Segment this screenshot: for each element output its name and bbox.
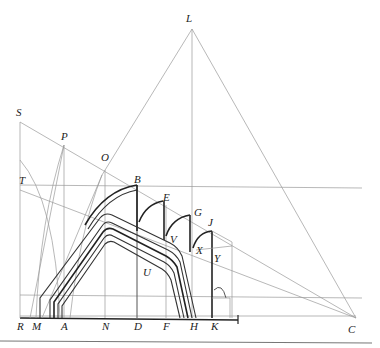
label-D: D [133,320,142,332]
base-line-thick [20,318,238,320]
label-M: M [31,320,42,332]
label-V: V [170,233,178,245]
line-L-C [192,29,356,318]
diag-P-M [30,145,64,318]
label-J: J [208,216,214,228]
label-U: U [143,266,152,278]
horizon-guide [20,185,362,188]
label-G: G [194,206,202,218]
label-P: P [60,130,68,142]
bottom-rule [0,341,372,343]
label-E: E [162,191,170,203]
ray-S-C [20,122,356,318]
line-L-O [102,29,192,175]
label-R: R [16,320,24,332]
rib-arc-E [139,201,163,222]
nested-ribs [40,214,196,318]
line-J [212,231,232,242]
rib-arc-B-outer [85,185,137,225]
vault-construction-diagram: L S P O T B E G J V X Y U R M A N D F H … [0,0,380,348]
label-F: F [162,320,170,332]
label-K: K [210,320,219,332]
point-labels: L S P O T B E G J V X Y U R M A N D F H … [16,12,356,335]
label-N: N [101,320,110,332]
label-B: B [134,173,141,185]
arc-O [70,175,102,318]
label-S: S [16,106,22,118]
label-T: T [19,174,26,186]
label-H: H [189,320,199,332]
label-Y: Y [214,252,222,264]
label-X: X [195,244,204,256]
label-C: C [348,323,356,335]
label-A: A [60,320,68,332]
label-L: L [185,12,192,24]
label-O: O [101,151,109,163]
